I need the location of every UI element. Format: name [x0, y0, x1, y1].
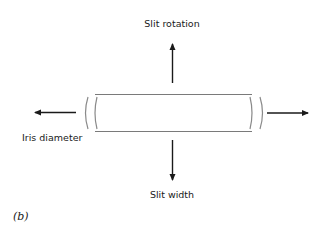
right-outer-bracket-icon [260, 97, 263, 129]
left-inner-bracket-icon [95, 97, 97, 129]
panel-label: (b) [13, 210, 29, 223]
slit-shape [86, 95, 263, 132]
iris-diameter-label: Iris diameter [22, 132, 82, 143]
slit-diagram: Slit rotation Iris diameter Slit width (… [0, 0, 329, 232]
slit-width-label: Slit width [150, 189, 194, 200]
slit-rotation-label: Slit rotation [144, 18, 199, 29]
right-inner-bracket-icon [250, 97, 252, 129]
left-outer-bracket-icon [86, 97, 89, 129]
